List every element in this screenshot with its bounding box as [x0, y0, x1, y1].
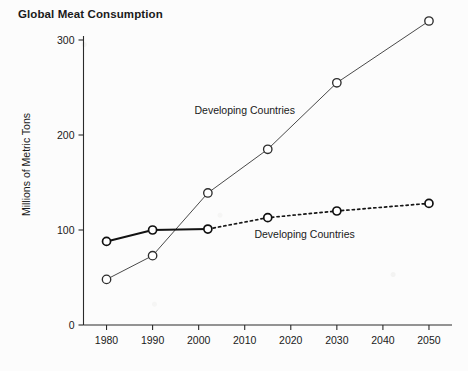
- data-point-marker: [148, 251, 156, 259]
- data-point-marker: [103, 237, 111, 245]
- line-chart-plot: 0100200300Millions of Metric Tons 198019…: [0, 0, 468, 371]
- data-point-marker: [264, 214, 272, 222]
- data-point-marker: [425, 17, 433, 25]
- x-tick-label: 1990: [141, 334, 165, 346]
- data-point-marker: [333, 79, 341, 87]
- y-tick-label: 300: [57, 34, 75, 46]
- data-point-marker: [333, 207, 341, 215]
- y-axis: 0100200300Millions of Metric Tons: [20, 34, 84, 331]
- x-tick-label: 1980: [95, 334, 119, 346]
- series-label-1: Developing Countries: [254, 228, 354, 240]
- data-point-marker: [204, 225, 212, 233]
- x-tick-label: 2050: [417, 334, 441, 346]
- data-point-marker: [204, 189, 212, 197]
- data-point-marker: [425, 199, 433, 207]
- data-point-marker: [264, 145, 272, 153]
- data-point-marker: [149, 226, 157, 234]
- y-tick-label: 200: [57, 129, 75, 141]
- data-point-marker: [102, 275, 110, 283]
- x-tick-label: 2030: [325, 334, 349, 346]
- x-tick-label: 2000: [187, 334, 211, 346]
- x-tick-label: 2010: [233, 334, 257, 346]
- series-annotations: Developing CountriesDeveloping Countries: [195, 104, 355, 240]
- x-axis: 19801990200020102020203020402050: [84, 325, 453, 346]
- y-tick-label: 0: [69, 319, 75, 331]
- series-label-0: Developing Countries: [195, 104, 295, 116]
- x-tick-label: 2040: [371, 334, 395, 346]
- chart-container: Global Meat Consumption 0100200300Millio…: [0, 0, 468, 371]
- series-line-dotted-segment: [208, 203, 429, 229]
- data-series-group: [102, 17, 433, 284]
- y-tick-label: 100: [57, 224, 75, 236]
- x-tick-label: 2020: [279, 334, 303, 346]
- y-axis-title: Millions of Metric Tons: [20, 113, 32, 216]
